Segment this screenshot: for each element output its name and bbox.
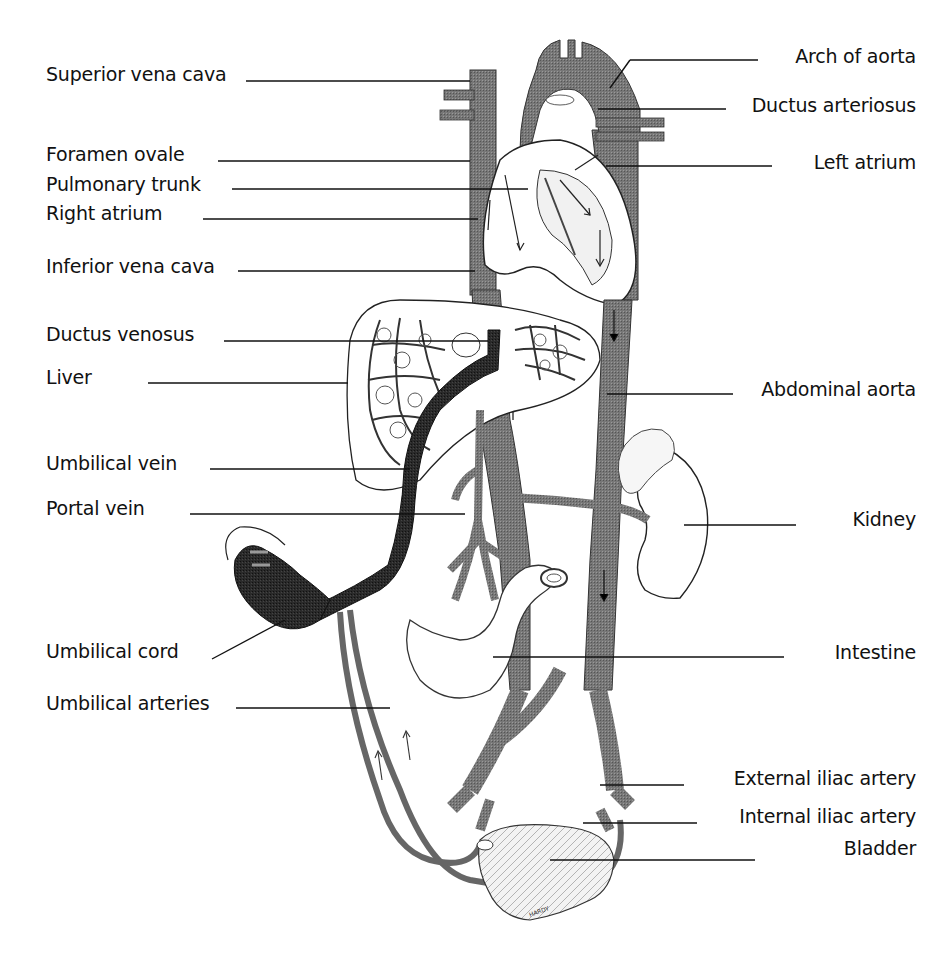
label-arch-of-aorta: Arch of aorta bbox=[795, 45, 916, 67]
label-right-atrium: Right atrium bbox=[46, 202, 162, 224]
liver bbox=[347, 300, 600, 490]
label-abdominal-aorta: Abdominal aorta bbox=[761, 378, 916, 400]
label-umbilical-cord: Umbilical cord bbox=[46, 640, 179, 662]
bladder: HARDY bbox=[477, 825, 614, 920]
label-ductus-venosus: Ductus venosus bbox=[46, 323, 194, 345]
label-external-iliac-artery: External iliac artery bbox=[734, 767, 916, 789]
label-bladder: Bladder bbox=[844, 837, 916, 859]
intestine bbox=[407, 565, 567, 698]
label-ductus-arteriosus: Ductus arteriosus bbox=[752, 94, 916, 116]
label-superior-vena-cava: Superior vena cava bbox=[46, 63, 226, 85]
fetal-circulation-diagram: HARDY Superior vena cavaForamen ovalePul… bbox=[0, 0, 947, 954]
umbilical-cord-leader-line bbox=[212, 620, 285, 659]
heart bbox=[440, 40, 664, 305]
label-internal-iliac-artery: Internal iliac artery bbox=[739, 805, 916, 827]
label-kidney: Kidney bbox=[852, 508, 916, 530]
label-umbilical-arteries: Umbilical arteries bbox=[46, 692, 209, 714]
label-umbilical-vein: Umbilical vein bbox=[46, 452, 177, 474]
label-intestine: Intestine bbox=[835, 641, 916, 663]
label-foramen-ovale: Foramen ovale bbox=[46, 143, 185, 165]
label-liver: Liver bbox=[46, 366, 92, 388]
label-portal-vein: Portal vein bbox=[46, 497, 145, 519]
label-left-atrium: Left atrium bbox=[814, 151, 916, 173]
label-inferior-vena-cava: Inferior vena cava bbox=[46, 255, 215, 277]
label-pulmonary-trunk: Pulmonary trunk bbox=[46, 173, 201, 195]
